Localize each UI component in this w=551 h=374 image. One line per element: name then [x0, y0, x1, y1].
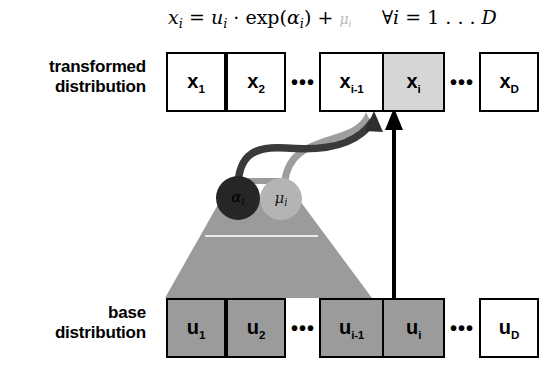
cell-u-i-label: ui	[406, 316, 421, 341]
node-mu[interactable]: μi	[260, 178, 302, 220]
cell-x2-label: x2	[247, 70, 264, 95]
cell-x-D-label: xD	[499, 70, 518, 95]
cell-x1[interactable]: x1	[166, 52, 226, 112]
row-label-transformed: transformed distribution	[6, 57, 146, 96]
cell-u2-label: u2	[247, 316, 265, 341]
cell-x-i[interactable]: xi	[383, 52, 445, 112]
cell-x-i-label: xi	[406, 70, 420, 95]
transformation-formula: xi = ui · exp(αi) + μi ∀i = 1 . . . D	[168, 6, 548, 40]
cell-x1-label: x1	[187, 70, 204, 95]
node-mu-label: μi	[274, 189, 287, 208]
cell-x-i-minus-1-label: xi-1	[340, 70, 364, 95]
row-label-base: base distribution	[6, 303, 146, 342]
cell-x-D[interactable]: xD	[479, 52, 539, 112]
node-alpha-label: αi	[231, 188, 244, 207]
ellipsis-base-left: •••	[288, 298, 318, 358]
row-label-base-line1: base	[6, 303, 146, 323]
ellipsis-transformed-right: •••	[447, 52, 477, 112]
cell-u-D-label: uD	[499, 316, 519, 341]
cell-x2[interactable]: x2	[226, 52, 286, 112]
cell-u2[interactable]: u2	[226, 298, 286, 358]
cell-u-i-minus-1-label: ui-1	[339, 316, 364, 341]
cell-u-i[interactable]: ui	[383, 298, 445, 358]
cell-u-D[interactable]: uD	[479, 298, 539, 358]
alpha-curved-arrow-icon	[238, 111, 383, 188]
row-label-transformed-line1: transformed	[6, 57, 146, 77]
cell-u1-label: u1	[187, 316, 205, 341]
row-label-transformed-line2: distribution	[6, 77, 146, 97]
figure-canvas: xi = ui · exp(αi) + μi ∀i = 1 . . . D tr…	[0, 0, 551, 374]
cell-u1[interactable]: u1	[166, 298, 226, 358]
ellipsis-transformed-left: •••	[288, 52, 318, 112]
cell-u-i-minus-1[interactable]: ui-1	[319, 298, 383, 358]
node-alpha[interactable]: αi	[216, 176, 260, 220]
row-label-base-line2: distribution	[6, 323, 146, 343]
cell-x-i-minus-1[interactable]: xi-1	[319, 52, 383, 112]
mu-curved-arrow-icon	[284, 112, 374, 192]
ellipsis-base-right: •••	[447, 298, 477, 358]
identity-vertical-arrow-icon	[385, 108, 403, 300]
